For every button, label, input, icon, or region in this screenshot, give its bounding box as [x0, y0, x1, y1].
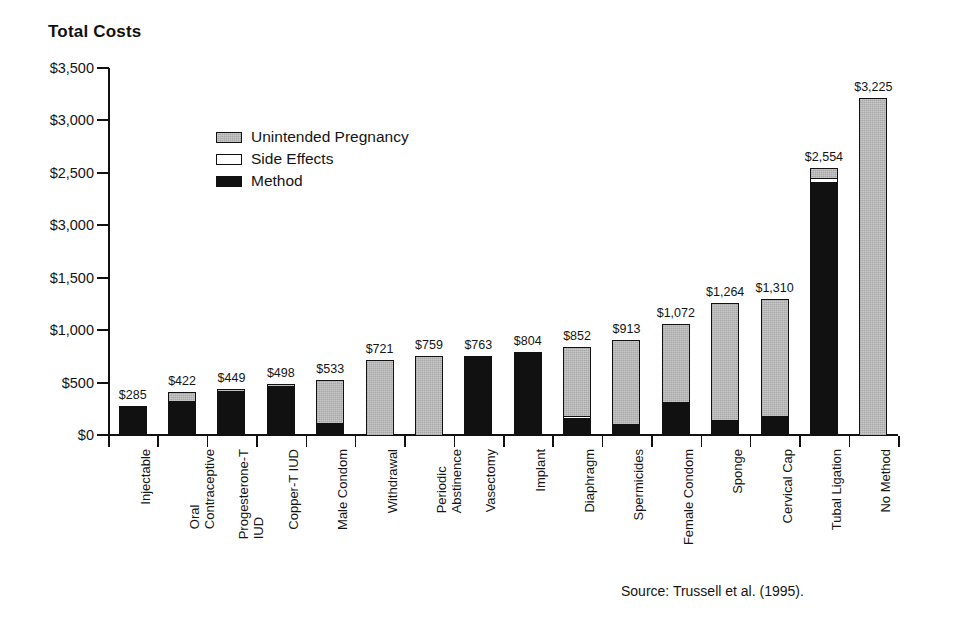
x-axis-tick — [701, 436, 703, 447]
x-axis-tick — [799, 436, 801, 447]
bar-segment-preg — [415, 356, 443, 436]
bar-spermicides[interactable] — [612, 340, 640, 436]
x-axis-category-labels: InjectableOralContraceptiveProgesterone-… — [108, 449, 898, 589]
x-axis-label-line: Oral — [188, 449, 203, 529]
bar-value-label: $759 — [415, 338, 443, 352]
x-axis-label-line: Spermicides — [632, 449, 647, 521]
x-axis-label-progesterone-t-iud: Progesterone-TIUD — [237, 449, 266, 539]
x-axis-label-no-method: No Method — [879, 449, 894, 513]
x-axis-label-line: Male Condom — [336, 449, 351, 530]
bar-segment-method — [514, 352, 542, 436]
x-axis-label-line: Progesterone-T — [237, 449, 252, 539]
legend-label: Unintended Pregnancy — [251, 128, 409, 146]
bar-segment-preg — [711, 303, 739, 420]
x-axis-label-line: Abstinence — [449, 449, 464, 513]
bar-value-label: $763 — [464, 338, 492, 352]
x-axis-label-line: Female Condom — [682, 449, 697, 545]
bar-segment-preg — [662, 324, 690, 403]
x-axis-tick — [503, 436, 505, 447]
bar-diaphragm[interactable] — [563, 347, 591, 436]
bar-oral-contraceptive[interactable] — [168, 392, 196, 436]
chart-legend: Unintended PregnancySide EffectsMethod — [216, 128, 409, 194]
y-axis-labels: $3,500$3,000$2,500$3,000$1,500$1,000$500… — [0, 0, 94, 619]
x-axis-tick — [602, 436, 604, 447]
y-axis-label: $500 — [14, 375, 94, 391]
bar-value-label: $449 — [218, 371, 246, 385]
source-note: Source: Trussell et al. (1995). — [621, 583, 804, 599]
bar-segment-method — [761, 418, 789, 436]
bar-value-label: $285 — [119, 388, 147, 402]
legend-item-side[interactable]: Side Effects — [216, 150, 409, 168]
x-axis-tick — [898, 436, 900, 447]
bar-cervical-cap[interactable] — [761, 299, 789, 436]
x-axis-label-line: Withdrawal — [386, 449, 401, 513]
legend-swatch-side — [216, 154, 242, 165]
y-axis-label: $2,500 — [14, 165, 94, 181]
bar-value-label: $533 — [316, 362, 344, 376]
chart-figure: Total Costs $3,500$3,000$2,500$3,000$1,5… — [0, 0, 957, 619]
bar-segment-method — [810, 183, 838, 436]
x-axis-label-line: No Method — [879, 449, 894, 513]
x-axis-label-copper-t-iud: Copper-T IUD — [287, 449, 302, 530]
bar-segment-preg — [810, 168, 838, 177]
x-axis-label-female-condom: Female Condom — [682, 449, 697, 545]
x-axis-label-implant: Implant — [534, 449, 549, 492]
x-axis-tick — [849, 436, 851, 447]
x-axis-label-spermicides: Spermicides — [632, 449, 647, 521]
bar-value-label: $3,225 — [854, 80, 892, 94]
bar-segment-preg — [612, 340, 640, 423]
legend-item-preg[interactable]: Unintended Pregnancy — [216, 128, 409, 146]
x-axis-tick — [355, 436, 357, 447]
bar-value-label: $422 — [168, 374, 196, 388]
bar-segment-method — [119, 406, 147, 436]
x-axis-label-line: Contraceptive — [203, 449, 218, 529]
bar-male-condom[interactable] — [316, 380, 344, 436]
bar-segment-method — [662, 402, 690, 436]
y-axis-label: $3,500 — [14, 60, 94, 76]
x-axis-label-male-condom: Male Condom — [336, 449, 351, 530]
bar-value-label: $913 — [613, 322, 641, 336]
x-axis-tick — [306, 436, 308, 447]
x-axis-label-line: Diaphragm — [583, 449, 598, 513]
bar-segment-preg — [563, 347, 591, 417]
bar-implant[interactable] — [514, 352, 542, 436]
bar-female-condom[interactable] — [662, 324, 690, 436]
x-axis-label-diaphragm: Diaphragm — [583, 449, 598, 513]
bar-segment-method — [267, 386, 295, 436]
bar-value-label: $2,554 — [805, 150, 843, 164]
x-axis-label-line: Injectable — [139, 449, 154, 505]
x-axis-label-oral-contraceptive: OralContraceptive — [188, 449, 217, 529]
x-axis-tick — [404, 436, 406, 447]
x-axis-label-line: IUD — [252, 449, 267, 539]
bar-no-method[interactable] — [859, 98, 887, 436]
bar-progesterone-t-iud[interactable] — [217, 389, 245, 436]
bar-injectable[interactable] — [119, 406, 147, 436]
x-axis-tick — [108, 436, 110, 447]
y-axis-label: $1,500 — [14, 270, 94, 286]
bar-segment-method — [316, 423, 344, 436]
x-axis-label-vasectomy: Vasectomy — [484, 449, 499, 512]
x-axis-tick — [750, 436, 752, 447]
x-axis-tick — [157, 436, 159, 447]
legend-label: Side Effects — [251, 150, 333, 168]
bar-vasectomy[interactable] — [464, 356, 492, 436]
bar-segment-preg — [859, 98, 887, 436]
x-axis-tick — [454, 436, 456, 447]
legend-item-method[interactable]: Method — [216, 172, 409, 190]
bar-sponge[interactable] — [711, 303, 739, 436]
legend-label: Method — [251, 172, 303, 190]
bar-value-label: $498 — [267, 366, 295, 380]
bar-withdrawal[interactable] — [366, 360, 394, 436]
bar-segment-preg — [761, 299, 789, 416]
x-axis-label-tubal-ligation: Tubal Ligation — [830, 449, 845, 530]
bar-tubal-ligation[interactable] — [810, 168, 838, 436]
x-axis-label-line: Implant — [534, 449, 549, 492]
bar-segment-method — [612, 426, 640, 436]
bar-segment-method — [563, 419, 591, 436]
x-axis-label-line: Tubal Ligation — [830, 449, 845, 530]
bar-periodic-abstinence[interactable] — [415, 356, 443, 436]
bar-copper-t-iud[interactable] — [267, 384, 295, 436]
x-axis-label-line: Periodic — [435, 449, 450, 513]
bar-segment-preg — [366, 360, 394, 436]
bar-segment-method — [464, 356, 492, 436]
